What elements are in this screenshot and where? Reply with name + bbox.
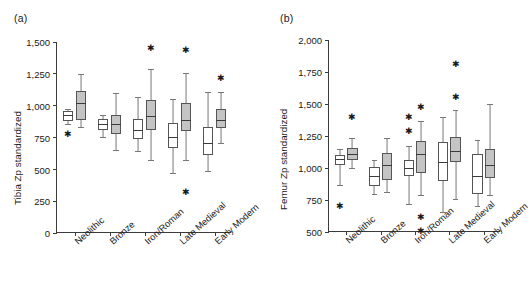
median-line xyxy=(438,162,448,163)
median-line xyxy=(146,116,157,117)
box-iqr xyxy=(63,111,74,121)
median-line xyxy=(416,154,426,155)
median-line xyxy=(404,168,414,169)
y-tick-label: 1,500 xyxy=(298,100,322,110)
outlier-asterisk-icon: ✱ xyxy=(417,102,425,111)
box-plot-a-filled-0 xyxy=(76,42,87,233)
y-tick-mark xyxy=(325,104,329,105)
y-tick-mark xyxy=(53,105,57,106)
whisker-cap-low xyxy=(418,195,424,196)
panel-b-y-axis-title: Femur Zp standardized xyxy=(278,109,289,210)
box-plot-a-filled-2 xyxy=(146,42,157,233)
panel-a-label: (a) xyxy=(14,12,27,24)
whisker-cap-low xyxy=(384,192,390,193)
y-tick-mark xyxy=(325,232,329,233)
outlier-asterisk-icon: ✱ xyxy=(182,187,190,196)
panel-b-plot-area: 5007501,0001,2501,5001,7502,000Neolithic… xyxy=(328,40,500,232)
outlier-asterisk-icon: ✱ xyxy=(217,73,225,82)
y-tick-mark xyxy=(325,136,329,137)
median-line xyxy=(347,154,357,155)
box-iqr xyxy=(416,141,426,173)
whisker-cap-high xyxy=(65,109,71,110)
outlier-asterisk-icon: ✱ xyxy=(417,213,425,222)
outlier-asterisk-icon: ✱ xyxy=(336,202,344,211)
box-plot-b-open-3 xyxy=(438,40,448,232)
median-line xyxy=(133,130,144,131)
whisker-cap-high xyxy=(205,92,211,93)
median-line xyxy=(63,115,74,116)
box-plot-b-open-2 xyxy=(404,40,414,232)
whisker-cap-high xyxy=(170,99,176,100)
whisker-cap-high xyxy=(113,93,119,94)
outlier-asterisk-icon: ✱ xyxy=(405,112,413,121)
median-line xyxy=(472,176,482,177)
median-line xyxy=(485,165,495,166)
box-plot-b-filled-2 xyxy=(416,40,426,232)
box-plot-a-open-2 xyxy=(133,42,144,233)
outlier-asterisk-icon: ✱ xyxy=(405,126,413,135)
whisker-cap-high xyxy=(406,146,412,147)
whisker-cap-high xyxy=(148,69,154,70)
panel-b: (b) Femur Zp standardized 5007501,0001,2… xyxy=(266,0,532,306)
whisker-cap-high xyxy=(384,138,390,139)
box-plot-b-filled-1 xyxy=(382,40,392,232)
y-tick-mark xyxy=(53,201,57,202)
y-tick-label: 750 xyxy=(34,133,50,143)
box-iqr xyxy=(146,100,157,130)
whisker-cap-high xyxy=(487,104,493,105)
median-line xyxy=(335,159,345,160)
y-tick-mark xyxy=(53,137,57,138)
box-plot-b-open-1 xyxy=(369,40,379,232)
whisker-cap-low xyxy=(372,194,378,195)
whisker-cap-low xyxy=(349,168,355,169)
box-iqr xyxy=(133,119,144,139)
median-line xyxy=(168,137,179,138)
median-line xyxy=(111,124,122,125)
whisker-cap-high xyxy=(349,138,355,139)
outlier-asterisk-icon: ✱ xyxy=(452,60,460,69)
y-tick-label: 750 xyxy=(306,196,322,206)
whisker-cap-high xyxy=(418,121,424,122)
whisker-cap-high xyxy=(100,115,106,116)
box-plot-a-open-1 xyxy=(98,42,109,233)
whisker-cap-high xyxy=(78,74,84,75)
median-line xyxy=(76,103,87,104)
whisker-cap-low xyxy=(148,160,154,161)
whisker-cap-high xyxy=(218,92,224,93)
y-tick-mark xyxy=(53,169,57,170)
figure-root: (a) Tibia Zp standardized 02505007501,00… xyxy=(0,0,532,306)
whisker-cap-low xyxy=(65,124,71,125)
y-tick-label: 500 xyxy=(34,165,50,175)
box-plot-b-open-4 xyxy=(472,40,482,232)
box-iqr xyxy=(181,103,192,131)
y-tick-label: 1,000 xyxy=(26,101,50,111)
panel-a: (a) Tibia Zp standardized 02505007501,00… xyxy=(0,0,266,306)
median-line xyxy=(369,176,379,177)
y-tick-label: 1,000 xyxy=(298,164,322,174)
y-tick-label: 1,500 xyxy=(26,38,50,48)
whisker-cap-low xyxy=(205,171,211,172)
y-tick-mark xyxy=(325,72,329,73)
whisker-cap-low xyxy=(113,150,119,151)
whisker-cap-low xyxy=(337,185,343,186)
whisker-cap-high xyxy=(440,117,446,118)
y-tick-label: 0 xyxy=(45,229,50,239)
whisker-cap-low xyxy=(100,137,106,138)
outlier-asterisk-icon: ✱ xyxy=(147,44,155,53)
median-line xyxy=(216,120,227,121)
whisker-cap-low xyxy=(218,143,224,144)
box-iqr xyxy=(216,109,227,128)
whisker-cap-low xyxy=(183,160,189,161)
y-tick-label: 1,750 xyxy=(298,68,322,78)
median-line xyxy=(98,124,109,125)
whisker-cap-high xyxy=(453,110,459,111)
y-tick-mark xyxy=(325,40,329,41)
median-line xyxy=(450,151,460,152)
box-plot-a-filled-1 xyxy=(111,42,122,233)
box-iqr xyxy=(382,153,392,180)
whisker-cap-low xyxy=(475,206,481,207)
whisker-cap-low xyxy=(440,212,446,213)
box-plot-a-open-4 xyxy=(203,42,214,233)
box-iqr xyxy=(76,91,87,120)
panel-b-label: (b) xyxy=(280,12,293,24)
